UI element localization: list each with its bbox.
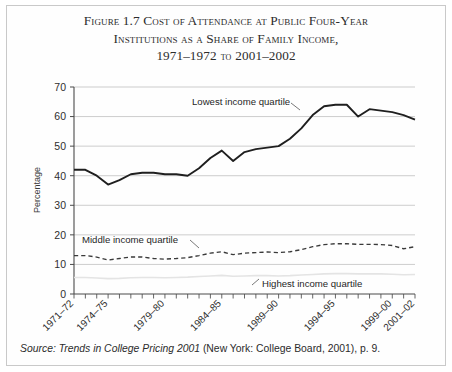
svg-text:60: 60 [54,110,66,122]
annotation-highest-income-quartile: Highest income quartile [252,278,362,289]
svg-text:1984–85: 1984–85 [188,297,224,333]
svg-text:1974–75: 1974–75 [74,297,110,333]
y-axis-tick-labels: 010203040506070 [54,81,74,300]
svg-text:1971–72: 1971–72 [40,297,76,333]
svg-text:50: 50 [54,140,66,152]
plot-area: 010203040506070 1971–721974–751979–80198… [0,0,452,372]
svg-text:1989–90: 1989–90 [245,297,281,333]
svg-text:1979–80: 1979–80 [131,297,167,333]
source-publisher: (New York: College Board, 2001), p. 9. [203,343,380,354]
svg-text:0: 0 [60,288,66,300]
y-axis-title: Percentage [32,167,42,213]
annotation-lowest-income-quartile: Lowest income quartile [192,96,300,110]
x-axis-minor-ticks [74,294,415,299]
svg-text:40: 40 [54,170,66,182]
svg-text:20: 20 [54,229,66,241]
svg-text:10: 10 [54,258,66,270]
series-middle-income-quartile [74,244,415,260]
svg-text:30: 30 [54,199,66,211]
source-citation: Source: Trends in College Pricing 2001 [20,343,200,354]
svg-text:Middle income quartile: Middle income quartile [82,234,178,245]
svg-text:1994–95: 1994–95 [302,297,338,333]
line-chart: 010203040506070 1971–721974–751979–80198… [0,0,452,372]
x-axis-tick-labels: 1971–721974–751979–801984–851989–901994–… [40,297,417,333]
source-note: Source: Trends in College Pricing 2001 (… [20,342,434,355]
series-highest-income-quartile [74,274,415,279]
figure-container: Figure 1.7 Cost of Attendance at Public … [0,0,452,372]
annotation-middle-income-quartile: Middle income quartile [82,234,199,248]
svg-text:Highest income quartile: Highest income quartile [262,278,362,289]
svg-text:Lowest income quartile: Lowest income quartile [192,96,290,107]
svg-text:70: 70 [54,81,66,93]
